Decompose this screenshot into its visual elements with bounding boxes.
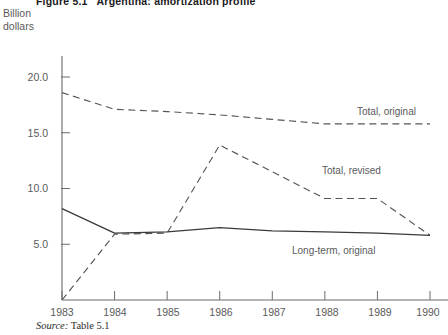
plot-area bbox=[0, 0, 448, 335]
source-note: Source: Table 5.1 bbox=[36, 320, 110, 331]
axes bbox=[61, 56, 448, 300]
series-line-long-term-original bbox=[62, 209, 430, 236]
series-line-total-revised bbox=[62, 145, 430, 300]
x-tick-marks bbox=[62, 291, 430, 300]
source-value: Table 5.1 bbox=[68, 320, 109, 331]
data-series-group bbox=[62, 93, 430, 300]
source-prefix: Source: bbox=[36, 320, 68, 331]
series-line-total-original bbox=[62, 93, 430, 124]
figure-container: Figure 5.1 Argentina: amortization profi… bbox=[0, 0, 448, 335]
